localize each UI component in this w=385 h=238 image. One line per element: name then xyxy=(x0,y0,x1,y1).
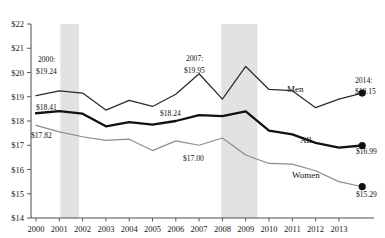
chart-container: $22 $21 $20 $19 $18 $17 $16 $15 $14 2000 xyxy=(0,0,385,238)
series-label-men: Men xyxy=(287,84,304,94)
annotation-2014-women-value: $15.29 xyxy=(356,190,377,199)
y-tick-label-17: $17 xyxy=(11,140,24,150)
x-tick-label-2001: 2001 xyxy=(51,224,68,234)
x-tick-label-2006: 2006 xyxy=(167,224,184,234)
y-tick-marks xyxy=(27,24,31,218)
x-tick-label-2003: 2003 xyxy=(97,224,114,234)
x-tick-marks xyxy=(36,218,339,222)
y-tick-label-19: $19 xyxy=(11,92,24,102)
y-tick-label-14: $14 xyxy=(11,213,25,223)
annotation-2014-men-year: 2014: xyxy=(355,76,372,85)
x-tick-label-2012: 2012 xyxy=(307,224,324,234)
annotation-2014-men-value: $19.15 xyxy=(355,87,376,96)
annotation-2007-men-value: $19.95 xyxy=(184,66,205,75)
y-tick-label-20: $20 xyxy=(11,68,24,78)
line-chart-svg: $22 $21 $20 $19 $18 $17 $16 $15 $14 2000 xyxy=(0,0,385,238)
x-tick-label-2011: 2011 xyxy=(284,224,301,234)
series-line-all xyxy=(36,111,362,148)
x-tick-label-2013: 2013 xyxy=(330,224,347,234)
x-tick-label-2007: 2007 xyxy=(191,224,208,234)
recession-band-2008 xyxy=(221,24,257,218)
x-tick-label-2009: 2009 xyxy=(237,224,254,234)
y-tick-label-21: $21 xyxy=(11,43,24,53)
y-tick-label-15: $15 xyxy=(11,189,24,199)
annotation-2007-men-year: 2007: xyxy=(186,54,203,63)
y-tick-label-22: $22 xyxy=(11,19,24,29)
annotation-2000-men-year: 2000: xyxy=(38,55,55,64)
annotation-2000-men-value: $19.24 xyxy=(36,67,57,76)
annotation-2000-all-value: $18.41 xyxy=(36,103,57,112)
x-tick-label-2005: 2005 xyxy=(144,224,161,234)
series-label-women: Women xyxy=(292,170,320,180)
series-label-all: All xyxy=(300,135,312,145)
y-tick-label-16: $16 xyxy=(11,165,24,175)
y-tick-label-18: $18 xyxy=(11,116,24,126)
annotation-2014-all-value: $16.99 xyxy=(356,147,377,156)
x-tick-label-2000: 2000 xyxy=(28,224,45,234)
x-tick-label-2008: 2008 xyxy=(214,224,231,234)
annotation-2000-women-value: $17.82 xyxy=(31,131,52,140)
x-tick-label-2002: 2002 xyxy=(74,224,91,234)
recession-bands xyxy=(60,24,257,218)
annotation-2007-all-value: $18.24 xyxy=(160,109,181,118)
recession-band-2001 xyxy=(60,24,79,218)
x-tick-label-2010: 2010 xyxy=(261,224,278,234)
annotation-2007-women-value: $17.00 xyxy=(183,154,204,163)
x-tick-label-2004: 2004 xyxy=(121,224,139,234)
